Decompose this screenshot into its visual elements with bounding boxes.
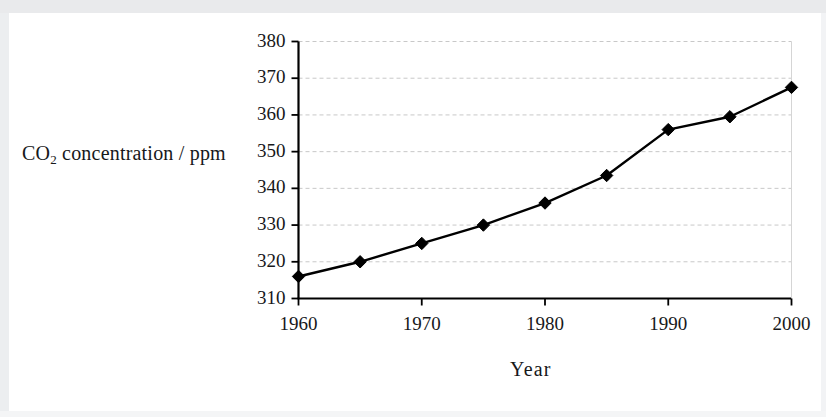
x-tick-label-2000: 2000 [757,313,826,335]
axes-group [298,42,792,299]
data-point-2000 [785,81,797,93]
data-point-1975 [477,219,489,231]
page-canvas: CO2 concentration / ppm Year 31032033034… [0,0,826,417]
data-point-1980 [539,197,551,209]
gridlines-group [299,42,792,262]
y-tick-label-370: 370 [240,66,286,88]
y-tick-label-330: 330 [240,213,286,235]
y-tick-label-320: 320 [240,250,286,272]
x-tick-label-1990: 1990 [633,313,703,335]
plot-area [0,0,826,417]
data-series-line [299,87,792,276]
y-tick-label-360: 360 [240,103,286,125]
y-tick-label-350: 350 [240,140,286,162]
co2-concentration-line-chart: CO2 concentration / ppm Year 31032033034… [0,0,826,417]
x-tick-label-1970: 1970 [387,313,457,335]
y-tick-label-380: 380 [240,30,286,52]
data-line-group [299,87,792,276]
x-tick-label-1960: 1960 [264,313,334,335]
x-tick-label-1980: 1980 [510,313,580,335]
data-point-1970 [416,237,428,249]
data-point-1965 [354,256,366,268]
y-tick-label-340: 340 [240,176,286,198]
y-tick-label-310: 310 [240,287,286,309]
tick-marks-group [292,42,792,306]
data-point-1995 [724,111,736,123]
data-markers-group [292,81,797,282]
data-point-1960 [292,270,304,282]
